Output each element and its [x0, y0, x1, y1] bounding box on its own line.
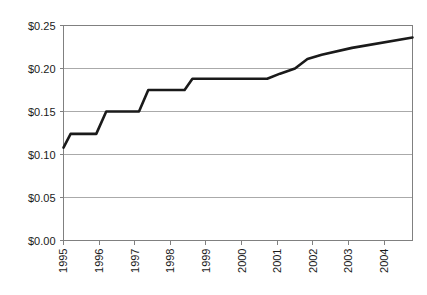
x-tick-label: 2004: [378, 249, 390, 273]
x-tick-label: 1995: [57, 249, 69, 273]
x-tick-label: 2001: [271, 249, 283, 273]
y-tick-label: $0.05: [28, 192, 56, 204]
y-tick-label: $0.25: [28, 20, 56, 32]
x-tick-label: 2003: [342, 249, 354, 273]
y-tick-label: $0.20: [28, 63, 56, 75]
x-tick-label: 1997: [129, 249, 141, 273]
x-tick-label: 2002: [307, 249, 319, 273]
chart-container: $0.00$0.05$0.10$0.15$0.20$0.25 199519961…: [0, 0, 427, 295]
y-tick-label: $0.15: [28, 106, 56, 118]
x-tick-label: 1998: [164, 249, 176, 273]
y-tick-label: $0.00: [28, 235, 56, 247]
y-tick-label: $0.10: [28, 149, 56, 161]
x-tick-label: 2000: [236, 249, 248, 273]
line-chart: $0.00$0.05$0.10$0.15$0.20$0.25 199519961…: [0, 0, 427, 295]
x-tick-label: 1999: [200, 249, 212, 273]
x-tick-label: 1996: [93, 249, 105, 273]
